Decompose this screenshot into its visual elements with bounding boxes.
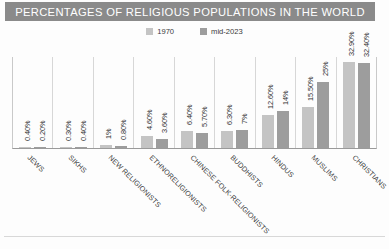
bar-group: 15.50%25%: [296, 57, 336, 148]
bar-groups: 0.40%0.20%0.30%0.40%1%0.80%4.60%3.60%6.4…: [13, 57, 376, 148]
bar-column[interactable]: 6.30%: [221, 57, 233, 148]
bar-value-label: 0.40%: [79, 120, 88, 140]
x-axis-tick: ETHNORELIGIONISTS: [134, 150, 175, 245]
bar[interactable]: [100, 145, 112, 148]
bar-column[interactable]: 32.40%: [358, 57, 370, 148]
bar-column[interactable]: 5.70%: [196, 57, 208, 148]
x-axis-tick-label: JEWS: [26, 153, 47, 174]
bar-column[interactable]: 1%: [100, 57, 112, 148]
x-axis-tick: BUDDHISTS: [215, 150, 256, 245]
bar-column[interactable]: 0.40%: [75, 57, 87, 148]
bar-column[interactable]: 0.40%: [19, 57, 31, 148]
bar-value-label: 15.50%: [306, 77, 315, 101]
bar[interactable]: [19, 147, 31, 149]
x-axis-tick-label: CHRISTIANS: [350, 153, 388, 191]
bar-group: 4.60%3.60%: [134, 57, 174, 148]
legend-item-1970[interactable]: 1970: [146, 27, 174, 36]
bar-value-label: 3.60%: [160, 112, 169, 132]
bar-value-label: 1%: [104, 129, 113, 139]
bar[interactable]: [317, 82, 329, 148]
bottom-divider: [4, 236, 385, 237]
bar-column[interactable]: 32.90%: [343, 57, 355, 148]
x-axis-tick: CHRISTIANS: [337, 150, 378, 245]
bar-column[interactable]: 15.50%: [302, 57, 314, 148]
x-axis-tick: SIKHS: [53, 150, 94, 245]
x-axis-tick: CHINESE FOLK-RELIGIONISTS: [174, 150, 215, 245]
bar-value-label: 0.30%: [64, 120, 73, 140]
page-title: PERCENTAGES OF RELIGIOUS POPULATIONS IN …: [15, 6, 365, 18]
bar[interactable]: [236, 130, 248, 148]
bar[interactable]: [75, 147, 87, 149]
plot-area: 0.40%0.20%0.30%0.40%1%0.80%4.60%3.60%6.4…: [12, 57, 377, 149]
x-axis-tick: NEW RELIGIONISTS: [93, 150, 134, 245]
legend-label-mid-2023: mid-2023: [211, 27, 243, 36]
bar-column[interactable]: 4.60%: [141, 57, 153, 148]
bar-value-label: 32.90%: [347, 31, 356, 55]
bar[interactable]: [221, 131, 233, 148]
x-axis-tick-label: HINDUS: [269, 153, 295, 179]
x-axis-category-labels: JEWSSIKHSNEW RELIGIONISTSETHNORELIGIONIS…: [12, 150, 377, 245]
legend-item-mid-2023[interactable]: mid-2023: [200, 27, 243, 36]
bar-group: 1%0.80%: [94, 57, 134, 148]
legend-swatch-mid-2023: [200, 28, 207, 35]
bar-value-label: 4.60%: [145, 109, 154, 129]
x-axis-tick-label: MUSLIMS: [310, 153, 340, 183]
bar-value-label: 12.60%: [266, 84, 275, 108]
x-axis-tick: JEWS: [12, 150, 53, 245]
bar[interactable]: [262, 115, 274, 148]
bar-column[interactable]: 0.80%: [115, 57, 127, 148]
bar-value-label: 14%: [281, 91, 290, 106]
x-axis-tick: MUSLIMS: [296, 150, 337, 245]
bar-group: 12.60%14%: [256, 57, 296, 148]
bar-value-label: 25%: [321, 62, 330, 77]
bar-value-label: 6.30%: [225, 105, 234, 125]
bar-column[interactable]: 3.60%: [156, 57, 168, 148]
bar[interactable]: [302, 107, 314, 148]
bar-group: 6.30%7%: [215, 57, 255, 148]
bar-value-label: 0.20%: [38, 120, 47, 140]
bar-column[interactable]: 7%: [236, 57, 248, 148]
bar-column[interactable]: 12.60%: [262, 57, 274, 148]
bar-column[interactable]: 25%: [317, 57, 329, 148]
bar[interactable]: [343, 62, 355, 148]
bar-value-label: 0.40%: [23, 120, 32, 140]
chart-legend: 1970 mid-2023: [0, 25, 389, 38]
bar-group: 6.40%5.70%: [175, 57, 215, 148]
bar-group: 0.40%0.20%: [13, 57, 53, 148]
bar[interactable]: [141, 136, 153, 148]
bar-column[interactable]: 0.30%: [60, 57, 72, 148]
bar[interactable]: [181, 131, 193, 148]
bar-group: 32.90%32.40%: [337, 57, 376, 148]
bar-value-label: 5.70%: [200, 107, 209, 127]
bar-value-label: 7%: [240, 113, 249, 123]
bar[interactable]: [115, 146, 127, 148]
x-axis-tick: HINDUS: [255, 150, 296, 245]
bar-column[interactable]: 0.20%: [34, 57, 46, 148]
bar-value-label: 6.40%: [185, 105, 194, 125]
bar-value-label: 0.80%: [119, 119, 128, 139]
chart-title-band: PERCENTAGES OF RELIGIOUS POPULATIONS IN …: [5, 2, 375, 21]
chart-root: PERCENTAGES OF RELIGIOUS POPULATIONS IN …: [0, 0, 389, 249]
legend-label-1970: 1970: [157, 27, 174, 36]
x-axis-tick-label: SIKHS: [66, 153, 88, 175]
bar-group: 0.30%0.40%: [53, 57, 93, 148]
bar[interactable]: [358, 63, 370, 148]
bar[interactable]: [34, 147, 46, 149]
bar-value-label: 32.40%: [362, 32, 371, 56]
bar[interactable]: [277, 111, 289, 148]
bar[interactable]: [60, 147, 72, 149]
bar[interactable]: [156, 139, 168, 148]
bar-column[interactable]: 14%: [277, 57, 289, 148]
bar[interactable]: [196, 133, 208, 148]
bar-column[interactable]: 6.40%: [181, 57, 193, 148]
legend-swatch-1970: [146, 28, 153, 35]
